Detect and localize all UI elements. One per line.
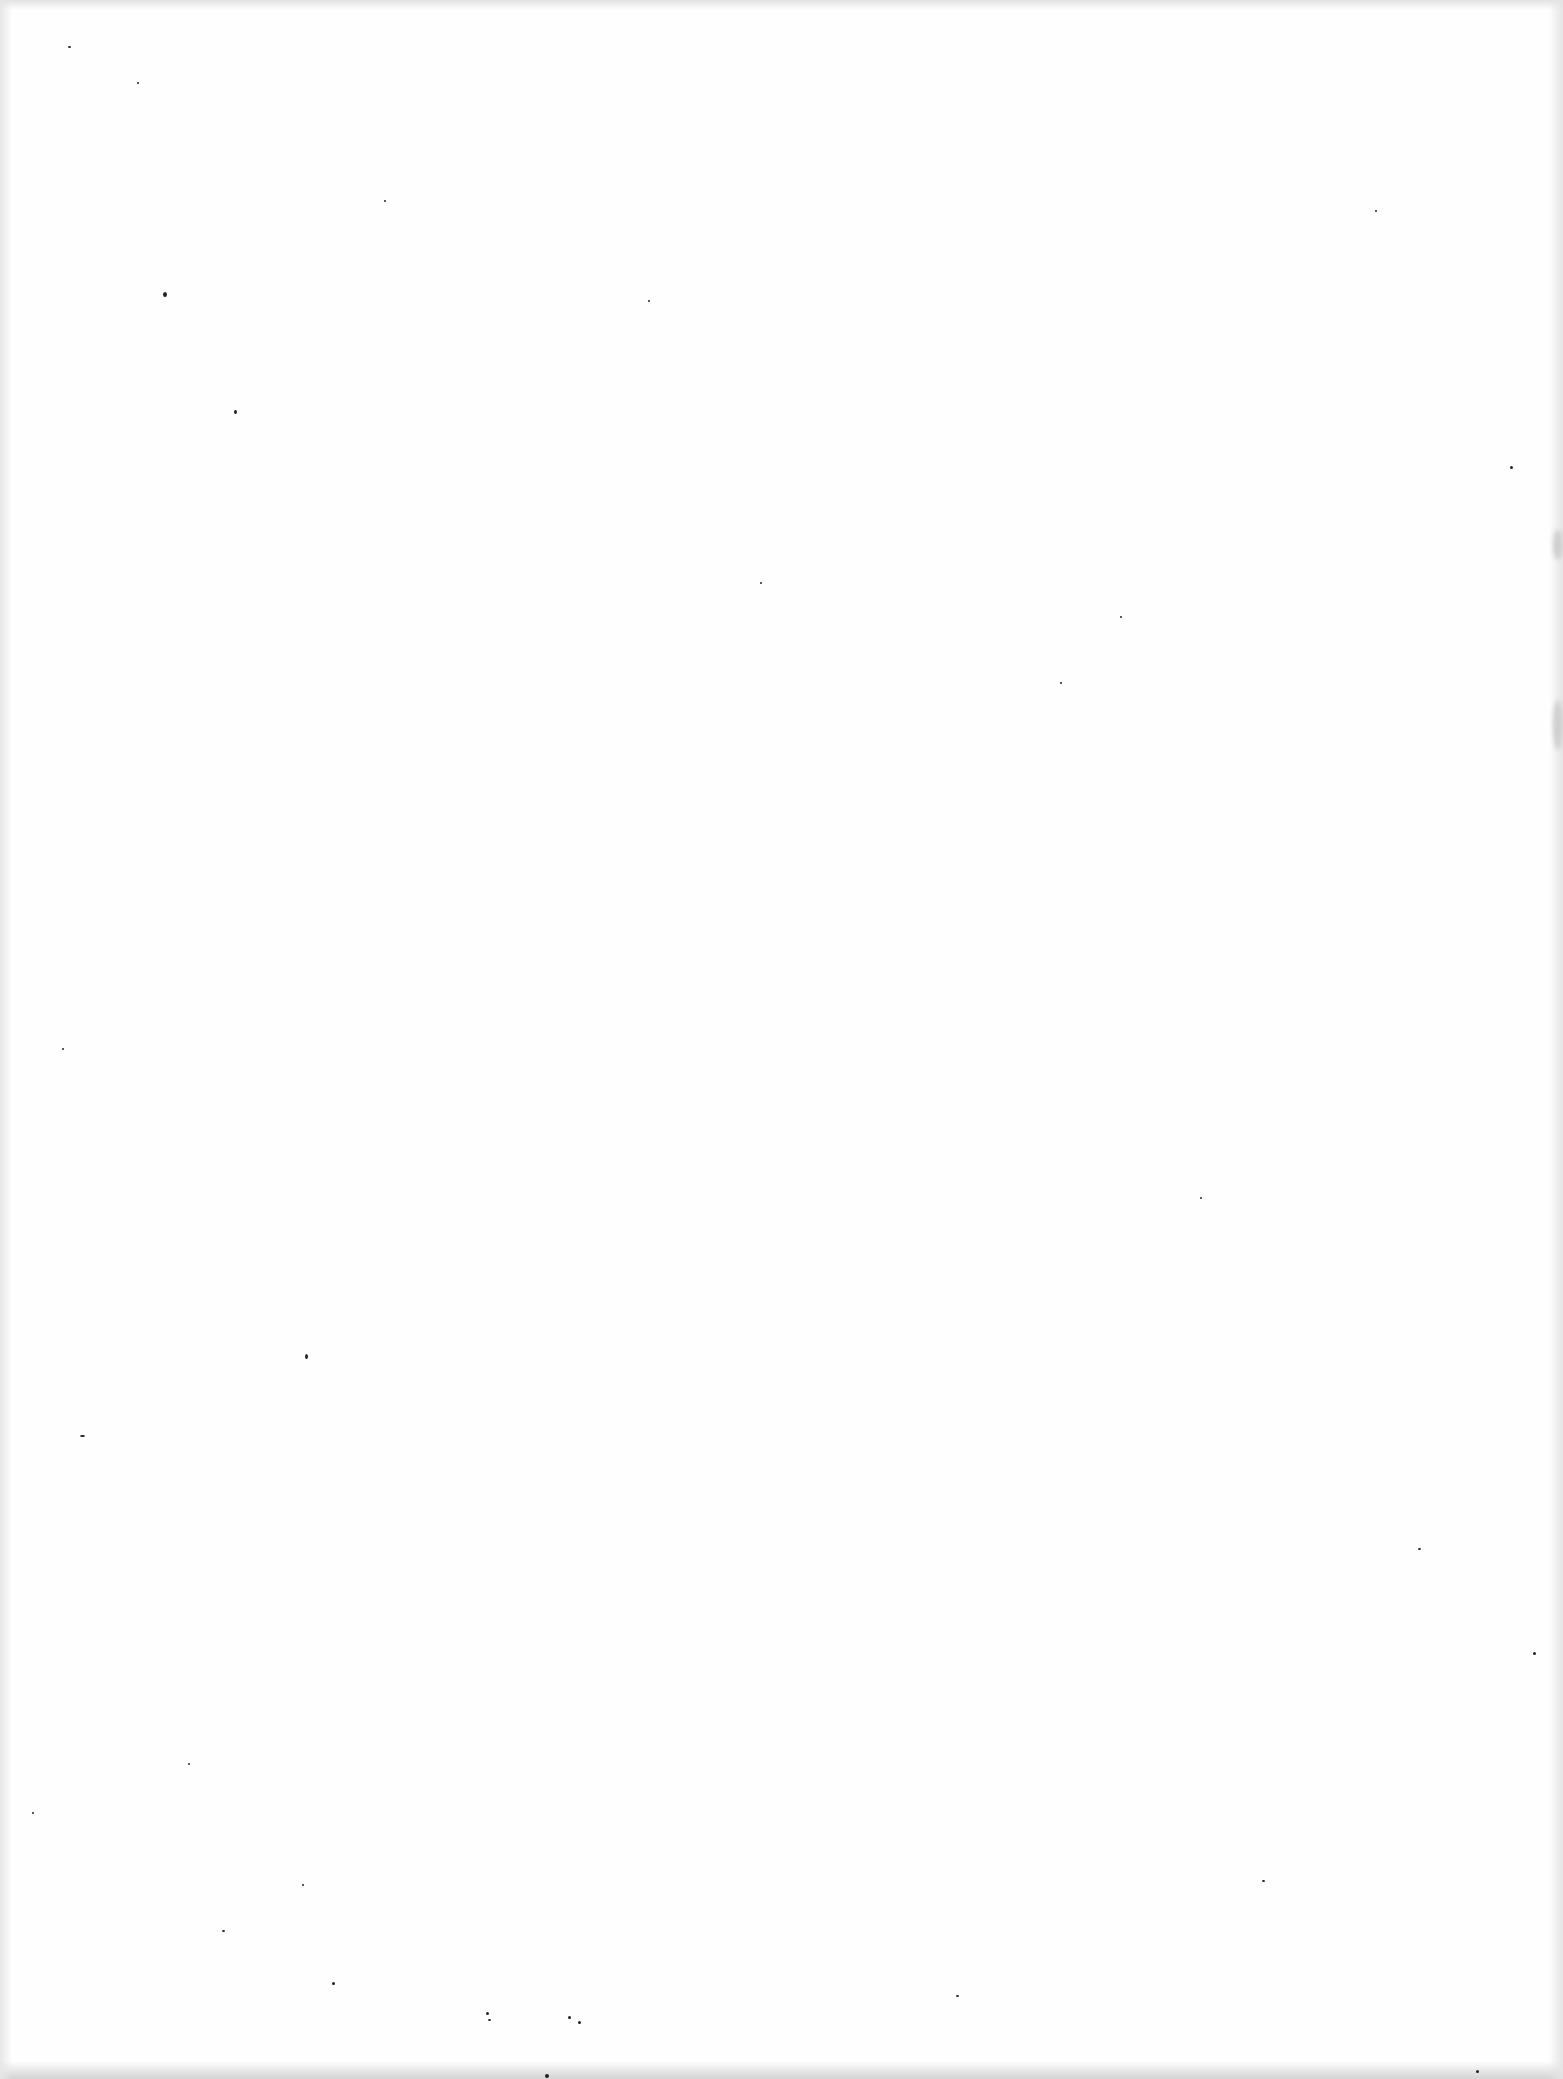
dust-speck bbox=[163, 292, 167, 297]
scan-smudge bbox=[1553, 700, 1563, 750]
dust-speck bbox=[68, 46, 71, 48]
dust-speck bbox=[1120, 616, 1122, 618]
dust-speck bbox=[234, 410, 237, 414]
dust-speck bbox=[545, 2074, 549, 2078]
dust-speck bbox=[1533, 1652, 1536, 1655]
dust-speck bbox=[1200, 1197, 1202, 1199]
dust-speck bbox=[222, 1930, 225, 1932]
scan-edge-left bbox=[0, 0, 12, 2079]
dust-speck bbox=[1510, 466, 1513, 469]
dust-speck bbox=[1418, 1548, 1421, 1550]
dust-speck bbox=[384, 200, 386, 202]
dust-speck bbox=[80, 1435, 85, 1437]
dust-speck bbox=[760, 582, 762, 584]
dust-speck bbox=[32, 1812, 34, 1814]
dust-speck bbox=[188, 1763, 190, 1765]
scan-edge-right bbox=[1549, 0, 1563, 2079]
blank-scanned-page bbox=[0, 0, 1563, 2079]
dust-speck bbox=[302, 1884, 304, 1886]
dust-speck bbox=[1476, 2070, 1479, 2073]
dust-speck bbox=[488, 2019, 491, 2021]
dust-speck bbox=[568, 2016, 571, 2019]
dust-speck bbox=[1375, 210, 1377, 212]
dust-speck bbox=[332, 1982, 335, 1985]
dust-speck bbox=[1262, 1880, 1265, 1882]
dust-speck bbox=[648, 300, 650, 302]
dust-speck bbox=[62, 1048, 64, 1050]
dust-speck bbox=[1060, 682, 1062, 684]
dust-speck bbox=[137, 82, 139, 84]
dust-speck bbox=[578, 2021, 581, 2024]
dust-speck bbox=[486, 2012, 489, 2015]
scan-edge-bottom bbox=[0, 2061, 1563, 2079]
dust-speck bbox=[956, 1995, 959, 1997]
scan-edge-top bbox=[0, 0, 1563, 10]
dust-speck bbox=[305, 1354, 308, 1359]
scan-smudge bbox=[1553, 530, 1563, 560]
